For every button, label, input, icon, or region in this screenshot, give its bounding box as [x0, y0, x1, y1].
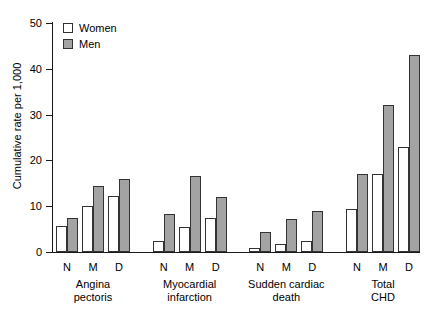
- bar-angina-pectoris-m-women: [82, 206, 93, 252]
- y-tick-label: 30: [18, 110, 42, 121]
- x-tick-label: N: [346, 262, 368, 273]
- bar-myocardial-infarction-n-men: [164, 214, 175, 252]
- x-tick-label: D: [398, 262, 420, 273]
- x-tick-label: N: [249, 262, 271, 273]
- y-tick-label: 40: [18, 64, 42, 75]
- legend-swatch-women-icon: [63, 23, 73, 33]
- x-tick-label: M: [372, 262, 394, 273]
- bar-angina-pectoris-n-men: [67, 218, 78, 252]
- bar-myocardial-infarction-n-women: [153, 241, 164, 252]
- x-tick-label: N: [56, 262, 78, 273]
- y-tick-mark: [46, 252, 52, 253]
- bar-sudden-cardiac-death-d-men: [312, 211, 323, 252]
- legend-item-women: Women: [63, 20, 117, 36]
- x-tick-label: N: [153, 262, 175, 273]
- legend-item-men: Men: [63, 36, 117, 52]
- bar-myocardial-infarction-m-women: [179, 227, 190, 252]
- chart-figure: Cumulative rate per 1,000 01020304050 NM…: [0, 0, 425, 314]
- bar-myocardial-infarction-d-men: [216, 197, 227, 252]
- bar-total-chd-n-men: [357, 174, 368, 252]
- bar-angina-pectoris-d-women: [108, 196, 119, 252]
- x-tick-label: D: [205, 262, 227, 273]
- bar-angina-pectoris-m-men: [93, 186, 104, 252]
- x-axis-line: [52, 252, 420, 253]
- x-tick-label: M: [275, 262, 297, 273]
- plot-area: [52, 23, 420, 252]
- y-tick-label: 10: [18, 201, 42, 212]
- legend-swatch-men-icon: [63, 39, 73, 49]
- bar-total-chd-m-women: [372, 174, 383, 252]
- chart-legend: Women Men: [63, 20, 117, 52]
- legend-label-men: Men: [79, 39, 100, 50]
- bar-myocardial-infarction-m-men: [190, 176, 201, 252]
- x-tick-label: D: [301, 262, 323, 273]
- bar-angina-pectoris-n-women: [56, 226, 67, 252]
- y-tick-label: 0: [18, 247, 42, 258]
- x-group-label: Sudden cardiac death: [231, 278, 341, 304]
- bar-sudden-cardiac-death-m-women: [275, 244, 286, 252]
- bar-total-chd-d-men: [409, 55, 420, 252]
- bar-sudden-cardiac-death-n-men: [260, 232, 271, 252]
- y-tick-label: 20: [18, 155, 42, 166]
- bar-angina-pectoris-d-men: [119, 179, 130, 252]
- x-group-label: Total CHD: [328, 278, 425, 304]
- bar-sudden-cardiac-death-m-men: [286, 219, 297, 252]
- bar-sudden-cardiac-death-n-women: [249, 248, 260, 252]
- bar-total-chd-n-women: [346, 209, 357, 253]
- y-tick-label: 50: [18, 18, 42, 29]
- x-tick-label: M: [179, 262, 201, 273]
- x-tick-label: D: [108, 262, 130, 273]
- bar-sudden-cardiac-death-d-women: [301, 241, 312, 252]
- legend-label-women: Women: [79, 23, 117, 34]
- y-axis-label: Cumulative rate per 1,000: [8, 0, 26, 252]
- x-tick-label: M: [82, 262, 104, 273]
- bar-myocardial-infarction-d-women: [205, 218, 216, 252]
- x-group-label: Angina pectoris: [38, 278, 148, 304]
- bar-total-chd-m-men: [383, 105, 394, 252]
- x-group-label: Myocardial infarction: [135, 278, 245, 304]
- bar-total-chd-d-women: [398, 147, 409, 252]
